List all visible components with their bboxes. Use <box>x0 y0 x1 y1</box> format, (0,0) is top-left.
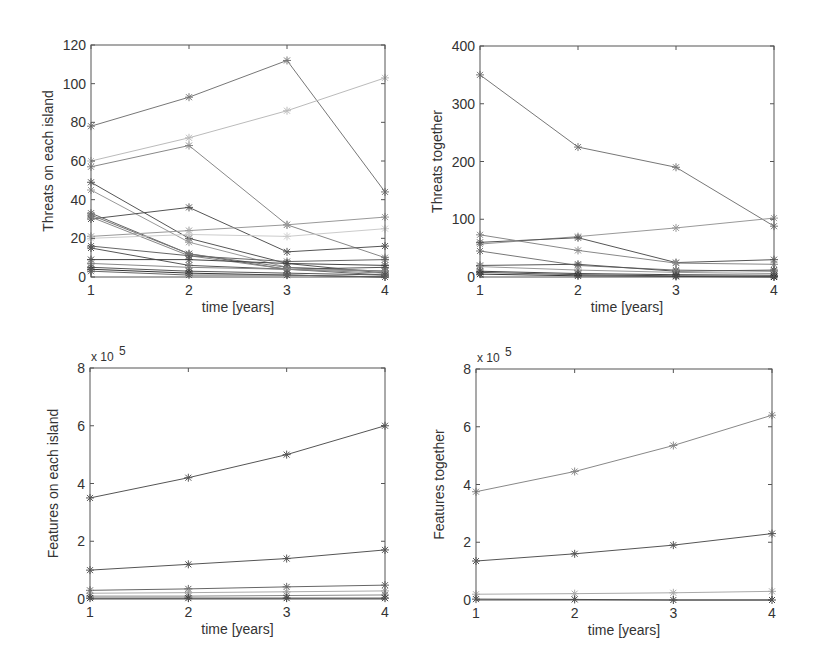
series-line <box>86 422 389 502</box>
axis-exponent-power: 5 <box>119 344 126 358</box>
y-tick-label: 0 <box>77 591 85 607</box>
series-line <box>87 203 389 255</box>
x-tick-label: 1 <box>86 604 94 620</box>
x-tick-label: 3 <box>283 282 291 298</box>
y-axis-label: Threats together <box>429 110 445 213</box>
y-tick-label: 100 <box>63 76 87 92</box>
y-tick-label: 2 <box>77 533 85 549</box>
y-tick-label: 0 <box>463 592 471 608</box>
x-axis-label: time [years] <box>202 299 274 315</box>
x-tick-label: 4 <box>381 604 389 620</box>
x-tick-label: 2 <box>184 604 192 620</box>
y-tick-label: 4 <box>463 477 471 493</box>
x-axis-label: time [years] <box>588 622 660 638</box>
axis-exponent: x 10 <box>477 351 500 365</box>
x-tick-label: 4 <box>381 282 389 298</box>
y-axis-label: Features on each island <box>45 409 61 558</box>
series-line <box>476 234 778 267</box>
x-tick-label: 3 <box>669 605 677 621</box>
x-tick-label: 1 <box>472 605 480 621</box>
subplot-features-together: 024681234time [years]Features togetherx … <box>431 345 776 638</box>
axes-box <box>91 45 385 277</box>
x-tick-label: 4 <box>770 282 778 298</box>
series-line <box>87 142 389 262</box>
x-tick-label: 3 <box>672 282 680 298</box>
y-tick-label: 300 <box>452 96 476 112</box>
series-line <box>87 74 389 165</box>
y-axis-label: Features together <box>431 429 447 540</box>
axes-box <box>90 368 385 599</box>
series-line <box>476 214 778 248</box>
x-tick-label: 2 <box>185 282 193 298</box>
series-line <box>472 587 776 598</box>
subplot-threats-together: 01002003004001234time [years]Threats tog… <box>429 38 778 315</box>
series-line <box>476 231 778 268</box>
x-axis-label: time [years] <box>591 299 663 315</box>
figure: 0204060801001201234time [years]Threats o… <box>0 0 816 672</box>
y-tick-label: 200 <box>452 154 476 170</box>
y-tick-label: 4 <box>77 476 85 492</box>
y-tick-label: 40 <box>70 192 86 208</box>
x-tick-label: 1 <box>476 282 484 298</box>
axis-exponent-power: 5 <box>505 345 512 359</box>
y-tick-label: 8 <box>463 361 471 377</box>
x-axis-label: time [years] <box>201 621 273 637</box>
axis-exponent: x 10 <box>91 350 114 364</box>
x-tick-label: 4 <box>768 605 776 621</box>
x-tick-label: 1 <box>87 282 95 298</box>
y-tick-label: 2 <box>463 534 471 550</box>
y-tick-label: 20 <box>70 230 86 246</box>
y-tick-label: 100 <box>452 211 476 227</box>
x-tick-label: 3 <box>283 604 291 620</box>
series-line <box>476 71 778 230</box>
y-tick-label: 8 <box>77 360 85 376</box>
x-tick-label: 2 <box>571 605 579 621</box>
y-tick-label: 60 <box>70 153 86 169</box>
y-tick-label: 400 <box>452 38 476 54</box>
axes-box <box>476 369 772 600</box>
subplot-threats-each-island: 0204060801001201234time [years]Threats o… <box>40 37 389 315</box>
y-tick-label: 6 <box>77 418 85 434</box>
x-tick-label: 2 <box>574 282 582 298</box>
y-tick-label: 80 <box>70 114 86 130</box>
series-line <box>472 411 776 496</box>
y-tick-label: 0 <box>78 269 86 285</box>
y-tick-label: 120 <box>63 37 87 53</box>
series-line <box>472 530 776 565</box>
y-axis-label: Threats on each island <box>40 90 56 232</box>
y-tick-label: 6 <box>463 419 471 435</box>
subplot-features-each-island: 024681234time [years]Features on each is… <box>45 344 389 637</box>
series-line <box>87 56 389 195</box>
y-tick-label: 0 <box>467 269 475 285</box>
series-line <box>86 546 389 574</box>
